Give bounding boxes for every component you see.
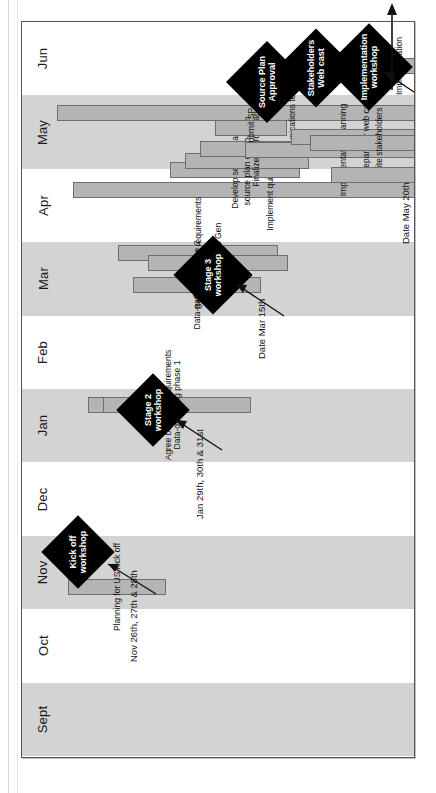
task-bar[interactable]: Invite stakeholders [310, 135, 414, 151]
month-axis-label: Dec [22, 462, 64, 535]
month-axis-label: Oct [22, 609, 64, 682]
milestone-label-line2: Web cast [316, 40, 326, 97]
annotation-jan-dates: Jan 29th, 30th & 31st [194, 519, 284, 530]
leader-line-stage-3 [220, 262, 290, 324]
month-axis-label: Sept [22, 683, 64, 756]
milestone-label-line1: Source Plan [257, 56, 267, 108]
annotation-nov-dates: Nov 26th, 27th & 28th [128, 662, 220, 673]
month-axis-label-text: Feb [35, 341, 50, 364]
month-axis-label-text: May [35, 119, 50, 144]
task-bar[interactable]: Submit SP [215, 120, 287, 136]
month-axis-label: Jun [22, 22, 64, 95]
annotation-nov-dates-text: Nov 26th, 27th & 28th [128, 570, 139, 662]
milestone-label-line1: Kick off [68, 531, 78, 574]
month-axis-label-text: Mar [36, 267, 51, 290]
milestone-label: Stakeholders Web cast [306, 40, 326, 97]
milestone-label-line1: Stage 2 [143, 389, 153, 432]
page-edge-line-left [8, 0, 9, 793]
milestone-label-line2: Approval [267, 56, 277, 108]
month-axis-label: Mar [22, 242, 64, 315]
month-axis-label-text: Jun [36, 48, 51, 70]
gantt-plot-area: SeptOctNovDecJanFebMarAprMayJun Planning… [22, 22, 414, 757]
milestone-label: Stage 2 workshop [143, 389, 163, 432]
month-axis-label-text: Jan [36, 415, 51, 437]
milestone-label-line1: Stage 3 [203, 254, 213, 297]
page-edge-line-inner [17, 0, 18, 793]
milestone-label-line2: workshop [78, 531, 88, 574]
annotation-mar-date: Date Mar 15th [256, 359, 316, 370]
month-axis-label-text: Nov [36, 561, 51, 585]
month-axis-label: Apr [22, 169, 64, 242]
month-band [22, 683, 414, 756]
annotation-may-date-text: Date May 20th [400, 182, 411, 244]
milestone-label: Source Plan Approval [257, 56, 277, 108]
month-axis-label: Feb [22, 316, 64, 389]
task-bar[interactable]: Recruit Implementation team (if differen… [331, 167, 414, 183]
month-axis-label-text: Sept [35, 706, 50, 734]
continuation-arrow-icon [382, 2, 402, 92]
gantt-chart-frame: SeptOctNovDecJanFebMarAprMayJun Planning… [21, 21, 415, 758]
milestone-label-line1: Stakeholders [306, 40, 316, 97]
annotation-mar-date-text: Date Mar 15th [256, 299, 267, 359]
month-axis-label-text: Apr [36, 195, 51, 216]
leader-line-kick-off [92, 542, 162, 602]
month-axis-label-text: Dec [36, 487, 51, 511]
milestone-label: Kick off workshop [68, 531, 88, 574]
month-axis-label-text: Oct [35, 635, 50, 656]
annotation-jan-dates-text: Jan 29th, 30th & 31st [194, 429, 205, 519]
milestone-label-line1: Implementation [359, 34, 369, 101]
month-axis-label: Jan [22, 389, 64, 462]
annotation-may-date: Date May 20th [400, 244, 414, 255]
